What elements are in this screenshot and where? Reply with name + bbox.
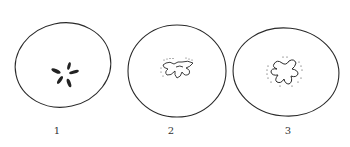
figure-canvas bbox=[0, 0, 350, 147]
panel-1-label: 1 bbox=[54, 125, 60, 136]
panel-3-label: 3 bbox=[285, 125, 291, 136]
outline-2 bbox=[128, 25, 226, 117]
outline-3 bbox=[229, 23, 344, 122]
panel-2 bbox=[128, 25, 226, 117]
core-2-lobed-icon bbox=[163, 61, 193, 78]
panel-3 bbox=[229, 23, 344, 122]
panel-2-label: 2 bbox=[168, 125, 174, 136]
core-3-star-icon bbox=[271, 60, 298, 84]
panel-1 bbox=[7, 14, 118, 116]
core-1-seeds-icon bbox=[51, 62, 80, 88]
outline-1 bbox=[7, 14, 118, 116]
